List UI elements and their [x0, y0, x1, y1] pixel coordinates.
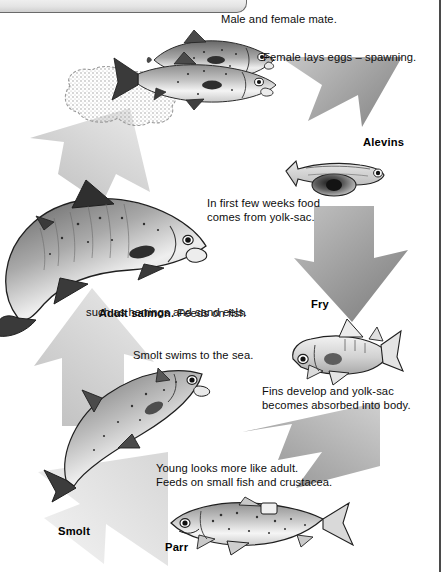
annotation-mate: Male and female mate. [221, 12, 337, 27]
annotation-young-line2: Feeds on small fish and crustacea. [156, 475, 332, 490]
top-banner-tab [0, 0, 247, 13]
annotation-young-line1: Young looks more like adult. [156, 461, 298, 476]
annotation-fins-line2: becomes absorbed into body. [262, 398, 411, 413]
fish-spawning-female [108, 52, 278, 110]
annotation-yolk-sac-line2: comes from yolk-sac. [207, 210, 315, 225]
annotation-smolt-sea: Smolt swims to the sea. [133, 348, 253, 363]
stage-label-fry: Fry [311, 298, 329, 310]
annotation-fins-line1: Fins develop and yolk-sac [262, 384, 394, 399]
arrow-spawning-to-alevins [278, 55, 408, 145]
stage-label-parr: Parr [165, 541, 188, 553]
annotation-spawning: Female lays eggs – spawning. [263, 50, 416, 65]
annotation-adult-line2: such as herrings and sand eels. [86, 305, 247, 320]
fish-fry [285, 315, 405, 387]
stage-label-smolt: Smolt [58, 525, 90, 537]
fish-parr [165, 497, 355, 559]
stage-label-alevins: Alevins [363, 136, 404, 148]
annotation-yolk-sac-line1: In first few weeks food [207, 196, 320, 211]
salmon-life-cycle-diagram: Male and female mate. Female lays eggs –… [0, 0, 441, 572]
